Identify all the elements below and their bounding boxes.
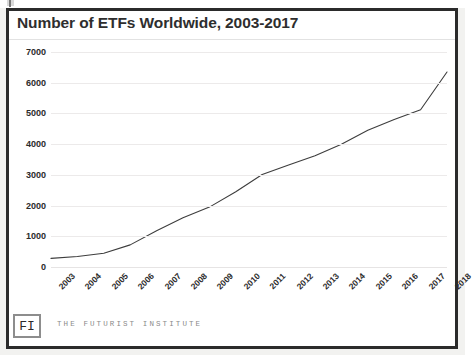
x-axis-tick-label: 2018 [453, 271, 473, 291]
x-axis-tick-label: 2005 [109, 271, 129, 291]
plot-region: 0100020003000400050006000700020032004200… [9, 40, 455, 310]
series-line-number-of-etfs [51, 72, 447, 258]
futurist-institute-logo: FI [13, 314, 41, 338]
x-axis-tick-label: 2010 [241, 271, 261, 291]
y-axis-tick-label: 6000 [26, 78, 46, 88]
x-axis-tick-label: 2012 [294, 271, 314, 291]
brand-text: THE FUTURIST INSTITUTE [57, 320, 202, 328]
gridline-y-0 [51, 267, 447, 268]
x-axis-tick-label: 2006 [136, 271, 156, 291]
gridline-y-3000 [51, 175, 447, 176]
page-title: Number of ETFs Worldwide, 2003-2017 [17, 14, 298, 32]
top-edge-artifact [0, 0, 465, 8]
x-axis-tick-label: 2014 [347, 271, 367, 291]
x-axis-tick-label: 2007 [162, 271, 182, 291]
gridline-y-1000 [51, 236, 447, 237]
gridline-y-6000 [51, 83, 447, 84]
x-axis-tick-label: 2003 [57, 271, 77, 291]
gridline-y-4000 [51, 144, 447, 145]
y-axis-tick-label: 2000 [26, 201, 46, 211]
x-axis-tick-label: 2016 [400, 271, 420, 291]
logo-label: FI [15, 316, 39, 336]
x-axis-tick-label: 2008 [189, 271, 209, 291]
y-axis-tick-label: 4000 [26, 139, 46, 149]
gridline-y-2000 [51, 206, 447, 207]
x-axis-tick-label: 2011 [268, 271, 288, 291]
chart-frame: Number of ETFs Worldwide, 2003-2017 0100… [6, 8, 458, 349]
x-axis-tick-label: 2013 [321, 271, 341, 291]
y-axis-tick-label: 0 [41, 262, 46, 272]
x-axis-tick-label: 2015 [373, 271, 393, 291]
x-axis-tick-label: 2017 [426, 271, 446, 291]
x-axis-tick-label: 2009 [215, 271, 235, 291]
scan-artifact-bar-icon [9, 0, 11, 7]
y-axis-tick-label: 7000 [26, 47, 46, 57]
gridline-y-7000 [51, 52, 447, 53]
y-axis-tick-label: 1000 [26, 231, 46, 241]
plot-area: 0100020003000400050006000700020032004200… [51, 52, 447, 267]
y-axis-tick-label: 5000 [26, 108, 46, 118]
footer-bar: FI THE FUTURIST INSTITUTE [9, 310, 455, 346]
gridline-y-5000 [51, 113, 447, 114]
x-axis-tick-label: 2004 [83, 271, 103, 291]
line-series-chart [51, 52, 447, 267]
chart-title-bar: Number of ETFs Worldwide, 2003-2017 [9, 11, 455, 40]
y-axis-tick-label: 3000 [26, 170, 46, 180]
